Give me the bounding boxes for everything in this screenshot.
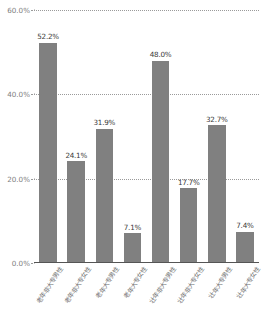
- y-axis-tick-label: 40.0%: [0, 90, 30, 99]
- bar: [96, 129, 113, 264]
- bar-value-label: 31.9%: [88, 118, 121, 127]
- bar-value-label: 24.1%: [59, 151, 92, 160]
- bar-chart: 0.0%20.0%40.0%60.0% 52.2%24.1%31.9%7.1%4…: [0, 0, 263, 319]
- bar: [208, 125, 225, 263]
- bar-value-label: 52.2%: [31, 32, 64, 41]
- bars-layer: 52.2%24.1%31.9%7.1%48.0%17.7%32.7%7.4%: [34, 10, 259, 263]
- x-axis-category-labels: 老年非大专男性老年非大专女性老年大专男性老年大专女性壮年非大专男性壮年非大专女性…: [34, 265, 259, 319]
- plot-area: 0.0%20.0%40.0%60.0% 52.2%24.1%31.9%7.1%4…: [34, 10, 259, 263]
- bar-value-label: 7.4%: [228, 221, 261, 230]
- y-axis-tick-label: 20.0%: [0, 174, 30, 183]
- bar: [236, 232, 253, 263]
- bar-value-label: 17.7%: [172, 178, 205, 187]
- x-axis-baseline: [34, 262, 259, 263]
- y-axis-tick-label: 60.0%: [0, 6, 30, 15]
- y-axis-tick-label: 0.0%: [0, 259, 30, 268]
- bar-value-label: 7.1%: [116, 223, 149, 232]
- bar-value-label: 32.7%: [200, 115, 233, 124]
- bar: [180, 188, 197, 263]
- bar: [67, 161, 84, 263]
- bar: [39, 43, 56, 263]
- bar-value-label: 48.0%: [144, 50, 177, 59]
- bar: [124, 233, 141, 263]
- bar: [152, 61, 169, 263]
